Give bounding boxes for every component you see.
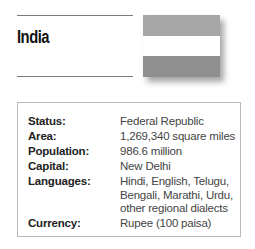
flag-stripe-bottom xyxy=(143,56,220,77)
country-facts-box: Status: Federal Republic Area: 1,269,340… xyxy=(17,102,241,237)
fact-value: Federal Republic xyxy=(120,115,250,129)
fact-value-line: Bengali, Marathi, Urdu, xyxy=(120,189,250,203)
fact-value-line: Hindi, English, Telugu, xyxy=(120,175,250,189)
fact-label: Population: xyxy=(28,145,89,159)
fact-value: New Delhi xyxy=(120,160,250,174)
fact-label: Area: xyxy=(28,130,56,144)
fact-value: 986.6 million xyxy=(120,145,250,159)
india-flag-icon xyxy=(143,15,220,77)
fact-label: Status: xyxy=(28,115,66,129)
fact-value: 1,269,340 square miles xyxy=(120,130,250,144)
country-title: India xyxy=(17,27,49,48)
fact-value: Hindi, English, Telugu, Bengali, Marathi… xyxy=(120,175,250,216)
flag-stripe-middle xyxy=(143,36,220,57)
fact-value: Rupee (100 paisa) xyxy=(120,217,250,231)
fact-label: Capital: xyxy=(28,160,69,174)
fact-label: Currency: xyxy=(28,217,81,231)
bottom-divider xyxy=(17,76,133,77)
fact-value-line: other regional dialects xyxy=(120,202,250,216)
top-divider xyxy=(17,15,133,16)
flag-stripe-top xyxy=(143,15,220,36)
fact-label: Languages: xyxy=(28,175,91,189)
